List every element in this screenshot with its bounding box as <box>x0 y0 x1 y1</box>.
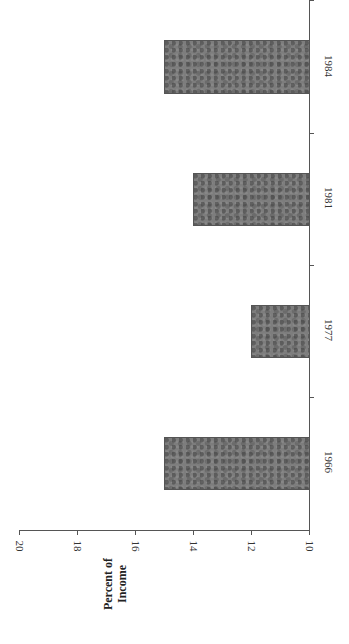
category-tick <box>310 397 314 398</box>
value-tick <box>193 530 194 535</box>
value-axis-line <box>19 530 310 531</box>
category-tick <box>310 133 314 134</box>
value-tick <box>19 530 20 535</box>
value-tick <box>77 530 78 535</box>
category-tick <box>310 265 314 266</box>
category-label-1977: 1977 <box>323 313 335 347</box>
value-tick-label: 18 <box>72 536 84 556</box>
bar-1966 <box>164 437 310 490</box>
category-tick <box>310 0 314 1</box>
value-tick-label: 12 <box>246 536 258 556</box>
value-axis-title-line-1: Percent of <box>101 549 115 619</box>
value-tick <box>251 530 252 535</box>
value-tick-label: 10 <box>304 536 316 556</box>
value-tick-label: 14 <box>188 536 200 556</box>
bar-1984 <box>164 40 310 94</box>
rotated-bar-chart: 20 18 16 14 12 10 1984 1981 1977 1966 Pe… <box>0 0 349 644</box>
value-tick <box>135 530 136 535</box>
value-tick <box>309 530 310 535</box>
value-tick-label: 16 <box>130 536 142 556</box>
bar-1977 <box>251 305 310 358</box>
value-axis-title-line-2: Income <box>115 549 129 619</box>
bar-1981 <box>193 173 310 226</box>
category-label-1981: 1981 <box>323 181 335 215</box>
value-axis-title: Percent of Income <box>101 549 129 619</box>
value-tick-label: 20 <box>14 536 26 556</box>
category-label-1984: 1984 <box>323 49 335 83</box>
category-label-1966: 1966 <box>323 445 335 479</box>
